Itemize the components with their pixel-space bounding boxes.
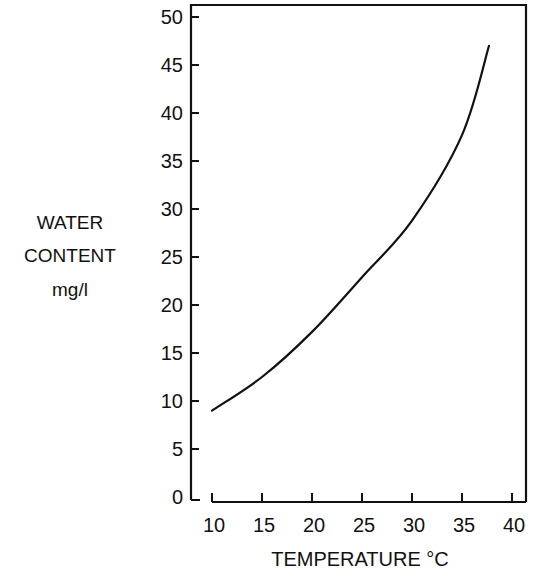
plot-frame (191, 5, 526, 502)
y-tick-label: 45 (161, 54, 183, 76)
x-tick-label: 10 (203, 514, 225, 536)
y-tick-label: 15 (161, 342, 183, 364)
x-tick-label: 25 (353, 514, 375, 536)
y-axis-label-line-3: mg/l (0, 280, 140, 299)
y-tick-label: 5 (172, 438, 183, 460)
data-curve (212, 46, 489, 411)
y-tick-label: 0 (172, 486, 183, 508)
x-tick-label: 20 (303, 514, 325, 536)
y-tick-label: 30 (161, 198, 183, 220)
x-tick-label: 35 (453, 514, 475, 536)
x-tick-label: 15 (253, 514, 275, 536)
y-tick-label: 40 (161, 102, 183, 124)
x-tick-label: 30 (403, 514, 425, 536)
y-tick-label: 25 (161, 246, 183, 268)
y-tick-label: 20 (161, 294, 183, 316)
y-tick-label: 35 (161, 150, 183, 172)
x-axis-label: TEMPERATURE °C (271, 548, 449, 570)
y-tick-label: 50 (161, 6, 183, 28)
x-tick-label: 40 (503, 514, 525, 536)
y-axis-label-line-2: CONTENT (0, 246, 140, 265)
y-tick-label: 10 (161, 390, 183, 412)
y-axis-label-line-1: WATER (0, 213, 140, 232)
